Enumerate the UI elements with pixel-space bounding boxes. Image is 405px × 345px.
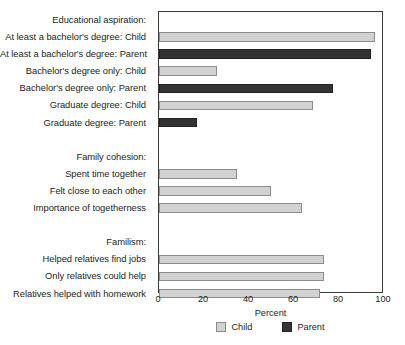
bar-chart: Educational aspiration:At least a bachel… (0, 0, 405, 345)
category-spacer (0, 131, 152, 148)
bar-row (159, 115, 382, 132)
x-tick-label: 20 (198, 294, 208, 304)
legend-label-parent: Parent (297, 322, 324, 332)
category-group-header: Family cohesion: (0, 148, 152, 165)
category-label: Spent time together (0, 165, 152, 182)
x-tick-label: 60 (288, 294, 298, 304)
bar-child (159, 101, 313, 111)
bar-child (159, 32, 375, 42)
legend-swatch-parent-icon (282, 322, 292, 332)
x-axis-title: Percent (158, 308, 383, 318)
bar-row (159, 46, 382, 63)
bar-row (159, 132, 382, 149)
category-label: Only relatives could help (0, 267, 152, 284)
category-group-header: Educational aspiration: (0, 11, 152, 28)
category-label: Felt close to each other (0, 182, 152, 199)
category-spacer (0, 216, 152, 233)
category-group-header: Familism: (0, 233, 152, 250)
bar-row (159, 217, 382, 234)
legend-label-child: Child (231, 322, 252, 332)
category-label: Relatives helped with homework (0, 285, 152, 302)
category-label: Bachelor's degree only: Parent (0, 79, 152, 96)
bar-child (159, 203, 302, 213)
bar-row (159, 268, 382, 285)
bar-child (159, 186, 271, 196)
bar-parent (159, 49, 371, 59)
x-tick-label: 80 (333, 294, 343, 304)
bar-row (159, 234, 382, 251)
legend: Child Parent (158, 322, 383, 332)
bar-parent (159, 118, 197, 128)
bar-row (159, 166, 382, 183)
bar-row (159, 183, 382, 200)
category-label: Bachelor's degree only: Child (0, 62, 152, 79)
legend-swatch-child-icon (216, 322, 226, 332)
category-axis-labels: Educational aspiration:At least a bachel… (0, 11, 152, 302)
category-label: Graduate degree: Child (0, 96, 152, 113)
plot-area (158, 11, 383, 293)
bar-row (159, 63, 382, 80)
bar-child (159, 169, 237, 179)
x-tick-label: 100 (375, 294, 390, 304)
bar-parent (159, 84, 333, 94)
category-label: At least a bachelor's degree: Child (0, 28, 152, 45)
bar-child (159, 255, 324, 265)
bar-rows (159, 12, 382, 292)
bar-row (159, 200, 382, 217)
category-label: Importance of togetherness (0, 199, 152, 216)
bar-row (159, 149, 382, 166)
category-label: At least a bachelor's degree: Parent (0, 45, 152, 62)
x-tick-label: 0 (155, 294, 160, 304)
bar-child (159, 66, 217, 76)
bar-row (159, 29, 382, 46)
category-label: Helped relatives find jobs (0, 250, 152, 267)
legend-item-parent: Parent (282, 322, 324, 332)
bar-row (159, 12, 382, 29)
legend-item-child: Child (216, 322, 252, 332)
bar-child (159, 272, 324, 282)
bar-row (159, 80, 382, 97)
category-label: Graduate degree: Parent (0, 114, 152, 131)
bar-row (159, 251, 382, 268)
x-tick-label: 40 (243, 294, 253, 304)
bar-row (159, 97, 382, 114)
x-axis-ticks: 020406080100 (158, 293, 383, 309)
